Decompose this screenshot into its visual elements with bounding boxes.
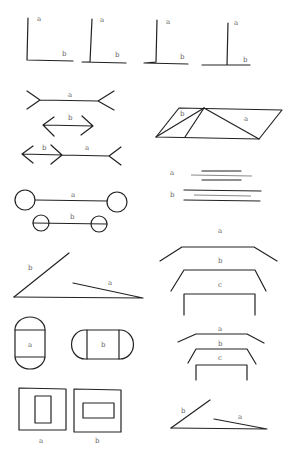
figure-line: [184, 294, 255, 315]
optical-illusions-figure: abababababbabaababbaabcababcabba: [0, 0, 297, 453]
figure-label: b: [181, 407, 186, 415]
figure-line-light: [194, 195, 251, 196]
figure-circle: [107, 192, 127, 212]
figure-line-light: [191, 175, 252, 176]
figure-line: [204, 108, 259, 139]
figure-label: a: [244, 115, 248, 123]
figure-label: b: [218, 340, 223, 348]
figure-label: a: [238, 413, 242, 421]
figure-label: b: [95, 437, 100, 445]
figure-label: c: [218, 354, 222, 362]
figure-label: b: [180, 53, 185, 61]
figure-line: [35, 396, 51, 423]
figure-label: a: [28, 341, 32, 349]
figure-line: [184, 200, 260, 201]
figure-circle: [15, 190, 35, 210]
figure-label: b: [68, 114, 73, 122]
figure-label: a: [71, 191, 75, 199]
trapezoid-size-illusion-small-panel: abc: [178, 325, 264, 380]
muller-lyer-illusion-panel: abba: [22, 91, 121, 165]
framed-rectangles-panel: ab: [19, 388, 121, 445]
figure-label: b: [243, 56, 248, 64]
figure-label: b: [218, 257, 223, 265]
figure-label: a: [170, 169, 174, 177]
figure-label: c: [218, 281, 222, 289]
figure-line: [156, 108, 282, 139]
figure-label: b: [28, 264, 33, 272]
figure-line: [83, 403, 114, 418]
figure-label: a: [218, 227, 222, 235]
sander-parallelogram-panel: ba: [156, 108, 282, 139]
figure-line: [33, 223, 107, 224]
figure-label: a: [37, 15, 41, 23]
capsule-shapes-panel: ab: [15, 317, 133, 369]
figure-label: a: [108, 279, 112, 287]
figure-label: a: [234, 19, 238, 27]
ponzo-angle-small-panel: ba: [171, 400, 267, 429]
figure-label: b: [62, 50, 67, 58]
figure-line: [196, 365, 247, 380]
dumbbell-circles-panel: ab: [15, 190, 127, 232]
figure-label: b: [101, 341, 106, 349]
figure-line: [171, 419, 267, 429]
figure-label: b: [170, 191, 175, 199]
trapezoid-size-illusion-panel: abc: [160, 227, 277, 315]
figure-line: [171, 400, 210, 428]
figure-label: a: [68, 91, 72, 99]
figure-label: a: [218, 325, 222, 333]
figure-label: a: [85, 144, 89, 152]
figure-line: [185, 108, 204, 137]
figure-label: a: [39, 437, 43, 445]
ponzo-angle-panel: ba: [14, 253, 143, 298]
figure-line: [184, 190, 261, 191]
figure-label: b: [180, 110, 185, 118]
figure-label: b: [42, 144, 47, 152]
figure-line: [19, 388, 66, 430]
figure-label: b: [70, 213, 75, 221]
figure-line: [188, 349, 256, 364]
figure-line: [35, 200, 107, 201]
figure-svg: abababababbabaababbaabcababcabba: [0, 0, 297, 453]
figure-line: [14, 253, 69, 297]
figure-label: a: [100, 16, 104, 24]
figure-line: [14, 283, 143, 298]
figure-label: b: [115, 51, 120, 59]
figure-line: [22, 145, 121, 165]
parallel-lines-illusion-panel: ab: [170, 169, 261, 201]
vertical-horizontal-illusion-panel: abababab: [27, 15, 250, 65]
figure-label: a: [166, 18, 170, 26]
